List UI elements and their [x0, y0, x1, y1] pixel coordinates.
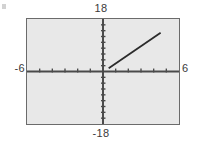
- x-axis-min-label: -6: [5, 63, 25, 74]
- data-series-line: [109, 33, 161, 69]
- plot-canvas: [27, 19, 179, 124]
- plot-area: [26, 18, 180, 125]
- y-axis-max-label: 18: [0, 3, 202, 14]
- x-axis-max-label: 6: [182, 63, 200, 74]
- y-axis-min-label: -18: [0, 128, 202, 139]
- graph-figure: 18 -18 -6 6: [0, 0, 202, 146]
